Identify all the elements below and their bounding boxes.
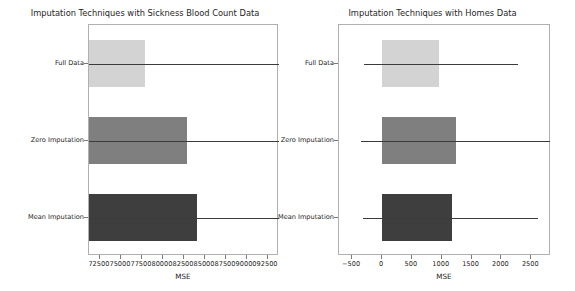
error-bar-zero-imputation: [89, 141, 279, 142]
x-tick-mark: [99, 255, 100, 259]
x-tick-label-6: 2500: [522, 260, 539, 268]
x-tick-label-4: 1500: [462, 260, 479, 268]
x-tick-label-8: 92500: [257, 260, 278, 268]
x-tick-mark: [411, 255, 412, 259]
error-bar-mean-imputation: [89, 218, 279, 219]
x-tick-mark: [246, 255, 247, 259]
x-tick-mark: [204, 255, 205, 259]
x-tick-mark: [141, 255, 142, 259]
y-tick-label-zero-imputation: Zero Imputation: [281, 136, 338, 144]
chart-title-right: Imputation Techniques with Homes Data: [290, 8, 575, 19]
x-axis-label-left: MSE: [88, 272, 278, 281]
x-tick-mark: [162, 255, 163, 259]
y-tick-label-mean-imputation: Mean Imputation: [278, 213, 338, 221]
y-tick-label-mean-imputation: Mean Imputation: [28, 213, 88, 221]
y-tick-label-zero-imputation: Zero Imputation: [31, 136, 88, 144]
x-tick-mark: [471, 255, 472, 259]
x-tick-mark: [441, 255, 442, 259]
x-tick-mark: [530, 255, 531, 259]
y-axis-right: Full DataZero ImputationMean Imputation: [290, 24, 338, 255]
x-tick-label-1: 0: [379, 260, 383, 268]
x-tick-mark: [183, 255, 184, 259]
plot-area-right: [338, 24, 550, 255]
error-bar-zero-imputation: [361, 141, 550, 142]
x-tick-mark: [500, 255, 501, 259]
x-tick-label-7: 90000: [236, 260, 257, 268]
y-axis-left: Full DataZero ImputationMean Imputation: [0, 24, 88, 255]
x-axis-label-right: MSE: [338, 272, 550, 281]
x-tick-label-1: 75000: [109, 260, 130, 268]
x-tick-mark: [225, 255, 226, 259]
plot-inner-left: [89, 25, 277, 254]
x-tick-label-5: 85000: [194, 260, 215, 268]
x-tick-mark: [120, 255, 121, 259]
chart-panel-sickness-blood-count: Imputation Techniques with Sickness Bloo…: [0, 0, 290, 291]
x-tick-label-3: 1000: [432, 260, 449, 268]
x-tick-label-2: 500: [405, 260, 418, 268]
x-tick-mark: [267, 255, 268, 259]
plot-area-left: [88, 24, 278, 255]
x-tick-label-3: 80000: [151, 260, 172, 268]
x-tick-mark: [351, 255, 352, 259]
x-tick-mark: [381, 255, 382, 259]
figure-canvas: Imputation Techniques with Sickness Bloo…: [0, 0, 575, 291]
x-axis-left: 7250075000775008000082500850008750090000…: [88, 255, 278, 273]
error-bar-full-data: [364, 64, 517, 65]
x-tick-label-5: 2000: [492, 260, 509, 268]
x-tick-label-6: 87500: [215, 260, 236, 268]
error-bar-full-data: [89, 64, 279, 65]
x-tick-label-2: 77500: [130, 260, 151, 268]
x-tick-label-0: 72500: [88, 260, 109, 268]
x-tick-label-4: 82500: [173, 260, 194, 268]
x-tick-label-0: −500: [342, 260, 360, 268]
plot-inner-right: [339, 25, 549, 254]
x-axis-right: −50005001000150020002500: [338, 255, 550, 273]
error-bar-mean-imputation: [363, 218, 538, 219]
chart-title-left: Imputation Techniques with Sickness Bloo…: [0, 8, 290, 19]
